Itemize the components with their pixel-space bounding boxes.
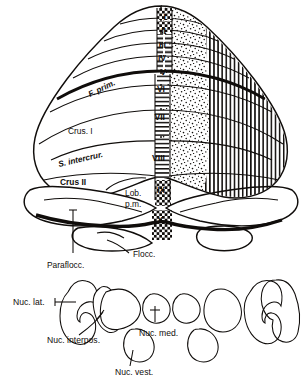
roman-III: III bbox=[159, 40, 166, 50]
label-nucleus-vestibularis: Nuc. vest. bbox=[115, 367, 153, 377]
roman-IX: IX bbox=[157, 185, 165, 195]
roman-II: II bbox=[161, 26, 166, 36]
label-crus-one: Crus. I bbox=[68, 126, 93, 136]
label-crus-two: Crus II bbox=[60, 177, 86, 187]
deep-nuclei-panel: Nuc. lat. Nuc. interpos. Nuc. med. Nuc. … bbox=[13, 280, 299, 377]
label-lobulus-paramedianus-1: Lob. bbox=[125, 188, 141, 198]
label-lobulus-paramedianus-2: p.m. bbox=[125, 199, 141, 209]
nucleus-interpositus-shape bbox=[100, 289, 140, 330]
cortex-outline-left bbox=[34, 6, 161, 198]
roman-IV: IV bbox=[158, 53, 166, 63]
label-nucleus-interpositus: Nuc. interpos. bbox=[47, 335, 100, 345]
label-nucleus-lateralis: Nuc. lat. bbox=[13, 297, 45, 307]
flocculus-outline bbox=[72, 227, 152, 251]
figure-canvas: F. prim. Crus. I S. intercrur. Crus II L… bbox=[0, 0, 304, 380]
nucleus-lateralis-pattern-shape-inner bbox=[244, 281, 282, 344]
paraflocculus-right-inner-line bbox=[180, 198, 278, 212]
roman-VIII: VIII bbox=[152, 153, 165, 163]
nucleus-medialis-pattern-shape bbox=[173, 294, 201, 323]
cerebellum-figure: F. prim. Crus. I S. intercrur. Crus II L… bbox=[0, 0, 304, 380]
roman-X: X bbox=[157, 215, 163, 225]
roman-VI: VI bbox=[157, 84, 165, 94]
label-flocculus: Flocc. bbox=[133, 249, 155, 259]
nucleus-vestibularis-pattern-shape bbox=[188, 329, 219, 362]
label-nucleus-medialis: Nuc. med. bbox=[139, 328, 178, 338]
nucleus-medialis-shape bbox=[143, 294, 171, 323]
roman-VII: VII bbox=[154, 112, 165, 122]
roman-V: V bbox=[160, 67, 166, 77]
label-paraflocculus: Paraflocc. bbox=[47, 260, 84, 270]
roman-I: I bbox=[164, 12, 166, 22]
nucleus-interpositus-pattern-shape bbox=[204, 289, 242, 332]
